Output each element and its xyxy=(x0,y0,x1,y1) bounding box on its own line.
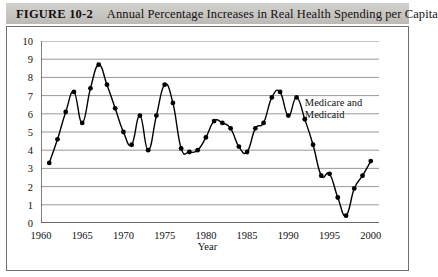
data-point-1975 xyxy=(162,82,167,87)
data-point-1998 xyxy=(352,186,357,191)
data-point-1978 xyxy=(187,150,192,155)
data-point-1989 xyxy=(278,90,283,95)
x-tick-label-1975: 1975 xyxy=(154,230,175,241)
figure-title: Annual Percentage Increases in Real Heal… xyxy=(107,7,438,22)
data-point-1993 xyxy=(311,142,316,147)
y-tick-label-6: 6 xyxy=(11,108,33,119)
chart-panel: 012345678910 196019651970197519801985199… xyxy=(6,26,409,271)
data-point-1963 xyxy=(63,110,68,115)
y-tick-label-10: 10 xyxy=(11,36,33,47)
x-tick-label-1970: 1970 xyxy=(113,230,134,241)
data-point-1972 xyxy=(138,113,143,118)
data-point-1991 xyxy=(294,95,299,100)
figure-number-label: FIGURE 10-2 xyxy=(16,7,93,22)
data-point-1970 xyxy=(121,130,126,135)
data-point-1971 xyxy=(129,142,134,147)
data-point-1976 xyxy=(171,100,176,105)
data-point-1980 xyxy=(203,135,208,140)
y-tick-label-8: 8 xyxy=(11,72,33,83)
data-point-1986 xyxy=(253,126,258,131)
data-point-1966 xyxy=(88,86,93,91)
data-point-1968 xyxy=(105,82,110,87)
data-point-2000 xyxy=(368,159,373,164)
data-point-1985 xyxy=(245,150,250,155)
plot-area xyxy=(41,41,379,223)
data-point-1974 xyxy=(154,113,159,118)
data-point-1973 xyxy=(146,148,151,153)
data-point-1987 xyxy=(261,121,266,126)
y-tick-label-7: 7 xyxy=(11,90,33,101)
data-point-1988 xyxy=(269,95,274,100)
data-point-1961 xyxy=(47,161,52,166)
data-point-1997 xyxy=(344,213,349,218)
y-tick-label-2: 2 xyxy=(11,181,33,192)
annotation-line-2: Medicaid xyxy=(305,109,362,122)
x-tick-label-1990: 1990 xyxy=(278,230,299,241)
annotation-medicare-medicaid: Medicare and Medicaid xyxy=(305,97,362,122)
x-tick-label-1980: 1980 xyxy=(195,230,216,241)
data-point-1984 xyxy=(236,144,241,149)
x-tick-label-2000: 2000 xyxy=(360,230,381,241)
data-line-series xyxy=(49,65,371,216)
data-point-1999 xyxy=(360,173,365,178)
y-tick-label-9: 9 xyxy=(11,54,33,65)
data-point-1995 xyxy=(327,171,332,176)
data-point-1983 xyxy=(228,126,233,131)
data-point-markers xyxy=(47,62,373,218)
x-tick-label-1995: 1995 xyxy=(319,230,340,241)
data-point-1990 xyxy=(286,113,291,118)
data-point-1981 xyxy=(212,119,217,124)
data-point-1965 xyxy=(80,121,85,126)
data-point-1982 xyxy=(220,121,225,126)
gridlines xyxy=(41,41,379,223)
data-point-1962 xyxy=(55,137,60,142)
data-point-1977 xyxy=(179,146,184,151)
data-point-1969 xyxy=(113,106,118,111)
x-axis-title: Year xyxy=(7,241,408,252)
data-point-1964 xyxy=(72,90,77,95)
x-tick-label-1965: 1965 xyxy=(72,230,93,241)
x-tick-label-1985: 1985 xyxy=(237,230,258,241)
y-tick-label-5: 5 xyxy=(11,127,33,138)
data-point-1967 xyxy=(96,62,101,67)
y-tick-label-1: 1 xyxy=(11,199,33,210)
y-tick-label-0: 0 xyxy=(11,218,33,229)
data-point-1996 xyxy=(335,195,340,200)
figure-caption-band: FIGURE 10-2 Annual Percentage Increases … xyxy=(6,3,409,24)
data-point-1994 xyxy=(319,173,324,178)
line-chart-svg xyxy=(41,41,379,223)
annotation-line-1: Medicare and xyxy=(305,97,362,110)
y-tick-label-4: 4 xyxy=(11,145,33,156)
y-tick-label-3: 3 xyxy=(11,163,33,174)
x-tick-label-1960: 1960 xyxy=(31,230,52,241)
data-point-1979 xyxy=(195,148,200,153)
